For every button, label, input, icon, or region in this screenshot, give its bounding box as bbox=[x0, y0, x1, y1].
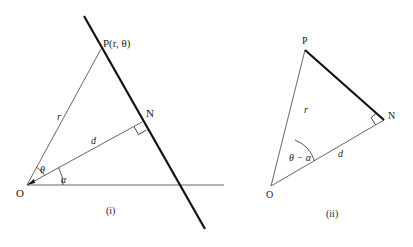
label-point-p: P(r, θ) bbox=[103, 38, 130, 49]
caption-figure-ii: (ii) bbox=[326, 209, 338, 219]
label-angle-theta: θ bbox=[40, 165, 45, 175]
right-angle-marker-ii bbox=[371, 113, 377, 125]
label-point-p-ii: P bbox=[302, 36, 308, 46]
label-origin-o: O bbox=[16, 188, 24, 199]
right-angle-marker bbox=[134, 127, 147, 135]
label-radius-r: r bbox=[57, 112, 61, 122]
label-distance-d: d bbox=[91, 136, 96, 146]
segment-pn-ii bbox=[305, 50, 384, 120]
polar-line-figure: P(r, θ) N r d θ α O (i) P N r d θ − α O … bbox=[0, 0, 413, 247]
label-angle-alpha: α bbox=[61, 175, 66, 185]
label-radius-r-ii: r bbox=[304, 105, 308, 115]
label-foot-n: N bbox=[146, 108, 154, 119]
segment-op-ii bbox=[271, 50, 305, 186]
caption-figure-i: (i) bbox=[106, 206, 115, 216]
label-angle-theta-minus-alpha: θ − α bbox=[289, 153, 311, 163]
segment-on-ii bbox=[271, 120, 384, 186]
label-origin-o-ii: O bbox=[266, 190, 273, 200]
figure-ii-geometry bbox=[271, 50, 384, 186]
geometry-drawing bbox=[0, 0, 413, 247]
label-distance-d-ii: d bbox=[338, 149, 343, 159]
label-foot-n-ii: N bbox=[388, 111, 395, 121]
